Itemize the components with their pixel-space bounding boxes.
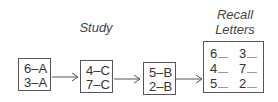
recall-box: 6 4 5 3 7 2 [203, 41, 264, 93]
arrow-icon [52, 72, 80, 82]
study-box-1: 6–A 3–A [18, 58, 51, 91]
pair: 5–B [149, 65, 172, 80]
pair: 7–C [86, 77, 110, 92]
pair: 3–A [24, 75, 47, 90]
recall-item: 3 [239, 46, 257, 61]
pair: 6–A [24, 61, 47, 76]
recall-item: 2 [239, 76, 257, 91]
study-box-3: 5–B 2–B [143, 62, 176, 95]
recall-label-line2: Letters [210, 22, 260, 37]
pair: 2–B [149, 79, 172, 94]
recall-item: 6 [210, 46, 228, 61]
pair: 4–C [86, 63, 110, 78]
recall-item: 5 [210, 76, 228, 91]
study-label: Study [76, 20, 116, 35]
recall-item: 4 [210, 61, 228, 76]
arrow-icon [114, 74, 142, 84]
recall-item: 7 [239, 61, 257, 76]
study-box-2: 4–C 7–C [80, 60, 113, 93]
recall-label-line1: Recall [210, 7, 260, 22]
arrow-icon [176, 74, 204, 84]
